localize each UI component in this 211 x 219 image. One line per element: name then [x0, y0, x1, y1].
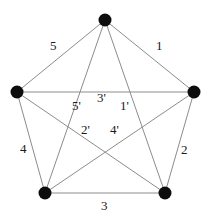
edge-1-label: 1: [156, 39, 163, 52]
vertex-top: [99, 14, 112, 27]
edge-3-label: 3: [101, 199, 108, 212]
vertex-bottom-left: [39, 187, 52, 200]
edge-2-prime-label: 2': [81, 123, 90, 136]
edge-1-prime-label: 1': [120, 99, 129, 112]
graph-figure: 123451'2'3'4'5': [0, 0, 211, 219]
vertex-bottom-right: [159, 187, 172, 200]
edge-5-label: 5: [50, 39, 57, 52]
edge-3-prime-label: 3': [97, 91, 106, 104]
graph-canvas: [0, 0, 211, 219]
edge-5: [17, 20, 105, 92]
vertex-right: [188, 86, 201, 99]
edge-2-label: 2: [181, 143, 188, 156]
vertex-left: [11, 86, 24, 99]
edge-5-prime-label: 5': [72, 99, 81, 112]
edge-2-prime: [17, 92, 165, 193]
edge-4-prime-label: 4': [110, 123, 119, 136]
edge-4-label: 4: [20, 142, 27, 155]
edge-2: [165, 92, 194, 193]
edge-1: [105, 20, 194, 92]
edges-group: [17, 20, 194, 193]
